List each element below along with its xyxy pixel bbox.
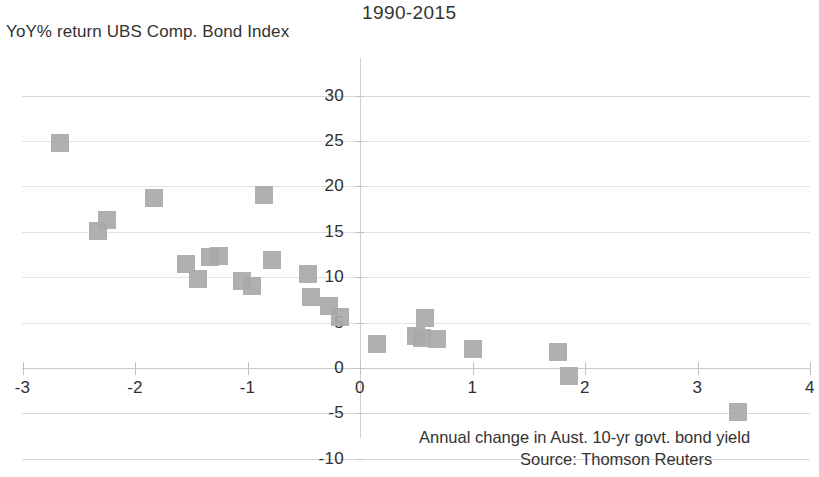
x-axis-tick-label: -3 <box>3 378 43 398</box>
x-axis-tick <box>23 362 24 375</box>
y-axis-tick <box>355 96 364 97</box>
x-axis-tick-label: 0 <box>340 378 380 398</box>
y-axis-tick-label: 20 <box>300 176 344 196</box>
y-axis-tick-label: 0 <box>300 358 344 378</box>
y-axis-tick <box>355 141 364 142</box>
data-point <box>428 330 446 348</box>
data-point <box>51 134 69 152</box>
data-point <box>549 343 567 361</box>
gridline <box>22 413 810 414</box>
data-point <box>331 308 349 326</box>
data-point <box>302 288 320 306</box>
scatter-chart: 1990-2015 YoY% return UBS Comp. Bond Ind… <box>0 0 819 477</box>
gridline <box>22 232 810 233</box>
y-axis-tick <box>355 277 364 278</box>
x-axis-tick <box>810 362 811 375</box>
gridline <box>22 186 810 187</box>
y-axis-tick-label: 15 <box>300 222 344 242</box>
data-point <box>416 309 434 327</box>
x-axis-tick <box>473 362 474 375</box>
y-axis-title: YoY% return UBS Comp. Bond Index <box>6 22 289 42</box>
chart-title: 1990-2015 <box>362 2 456 24</box>
x-axis-tick <box>585 362 586 375</box>
x-axis-title: Annual change in Aust. 10-yr govt. bond … <box>419 428 750 447</box>
gridline <box>22 96 810 97</box>
data-point <box>98 211 116 229</box>
gridline <box>22 141 810 142</box>
data-point <box>299 265 317 283</box>
x-axis-tick <box>135 362 136 375</box>
x-axis-line <box>22 368 810 369</box>
y-axis-tick <box>355 368 364 369</box>
data-point <box>189 270 207 288</box>
x-axis-tick-label: 1 <box>453 378 493 398</box>
x-axis-tick <box>248 362 249 375</box>
data-point <box>263 251 281 269</box>
y-axis-tick <box>355 413 364 414</box>
y-axis-tick <box>355 186 364 187</box>
x-axis-tick-label: -1 <box>228 378 268 398</box>
x-axis-tick <box>698 362 699 375</box>
y-axis-tick <box>355 232 364 233</box>
data-point <box>255 186 273 204</box>
y-axis-tick-label: -10 <box>300 449 344 469</box>
source-note: Source: Thomson Reuters <box>520 450 712 469</box>
data-point <box>464 340 482 358</box>
plot-area: 302520151050-5-10 -3-2-101234 <box>0 40 819 360</box>
y-axis-tick <box>355 459 364 460</box>
data-point <box>210 247 228 265</box>
data-point <box>729 403 747 421</box>
data-point <box>145 189 163 207</box>
x-axis-tick-label: -2 <box>115 378 155 398</box>
y-axis-tick-label: -5 <box>300 403 344 423</box>
data-point <box>243 277 261 295</box>
x-axis-tick-label: 4 <box>790 378 819 398</box>
gridline <box>22 277 810 278</box>
y-axis-tick-label: 25 <box>300 131 344 151</box>
y-axis-tick <box>355 323 364 324</box>
x-axis-tick-label: 3 <box>678 378 718 398</box>
y-axis-tick-label: 30 <box>300 86 344 106</box>
data-point <box>368 335 386 353</box>
data-point <box>560 367 578 385</box>
